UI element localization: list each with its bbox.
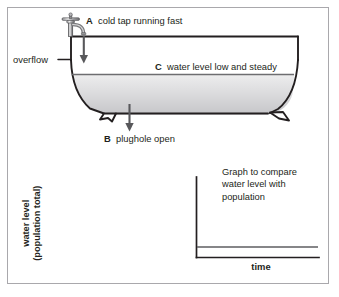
- graph-y-axis-label: water level (population total): [21, 175, 43, 271]
- label-b: B plughole open: [104, 134, 175, 145]
- graph-y-axis-label-line1: water level: [21, 200, 31, 247]
- label-b-text: plughole open: [116, 133, 175, 144]
- tub-left-foot: [100, 114, 116, 122]
- graph-y-axis-label-line2: (population total): [32, 175, 43, 271]
- label-b-key: B: [104, 133, 111, 144]
- tub-right-foot: [270, 112, 289, 121]
- figure-container: A cold tap running fast C water level lo…: [0, 0, 339, 297]
- diagram-canvas: [0, 0, 339, 297]
- label-c-text: water level low and steady: [167, 61, 277, 72]
- graph-x-axis-label: time: [221, 261, 301, 272]
- label-a: A cold tap running fast: [86, 16, 182, 27]
- tap-inflow-arrow: [80, 36, 88, 64]
- water-body: [72, 75, 295, 115]
- label-a-text: cold tap running fast: [98, 15, 182, 26]
- label-overflow: overflow: [13, 55, 48, 66]
- label-a-key: A: [86, 15, 93, 26]
- graph-title: Graph to compare water level with popula…: [222, 166, 318, 203]
- label-c-key: C: [155, 61, 162, 72]
- label-c: C water level low and steady: [155, 62, 277, 73]
- tap-icon: [62, 13, 86, 37]
